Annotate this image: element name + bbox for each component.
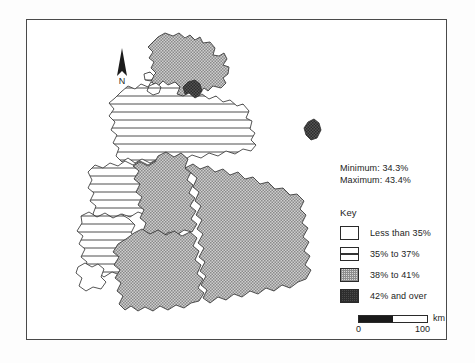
minimum-text: Minimum: 34.3% xyxy=(340,163,411,175)
scale-tick-labels: 0 100 xyxy=(358,324,428,336)
region-baden-wurttemberg xyxy=(113,229,204,311)
legend-label-35-37: 35% to 37% xyxy=(370,249,420,259)
legend-row-42-over: 42% and over xyxy=(340,285,431,306)
scale-tick-start: 0 xyxy=(356,324,361,334)
region-west-berlin xyxy=(304,119,321,140)
legend-label-lt35: Less than 35% xyxy=(370,228,431,238)
legend-row-38-41: 38% to 41% xyxy=(340,264,431,285)
map-page: N Minimum: 34.3% Maximum: 43.4% Key Less… xyxy=(0,0,475,363)
scale-bar: km 0 100 xyxy=(358,315,428,336)
legend-row-lt35: Less than 35% xyxy=(340,222,431,243)
legend-swatch-35-37 xyxy=(340,247,359,261)
region-bayern xyxy=(185,164,311,303)
map-frame: N Minimum: 34.3% Maximum: 43.4% Key Less… xyxy=(26,19,447,340)
region-saarland xyxy=(76,263,106,291)
scale-tick-end: 100 xyxy=(415,324,430,334)
maximum-text: Maximum: 43.4% xyxy=(340,175,411,187)
legend-swatch-42-over xyxy=(340,289,359,303)
north-arrow-label: N xyxy=(112,76,132,86)
map-legend: Key Less than 35% 35% to 37% 38% to 41% … xyxy=(340,207,431,306)
legend-title: Key xyxy=(340,207,431,218)
region-hessen xyxy=(133,152,197,237)
legend-row-35-37: 35% to 37% xyxy=(340,243,431,264)
legend-label-38-41: 38% to 41% xyxy=(370,270,420,280)
scale-segment-dark xyxy=(359,316,393,322)
statistics-block: Minimum: 34.3% Maximum: 43.4% xyxy=(340,163,411,186)
scale-unit-label: km xyxy=(433,313,445,323)
legend-label-42-over: 42% and over xyxy=(370,291,427,301)
legend-swatch-38-41 xyxy=(340,268,359,282)
legend-swatch-lt35 xyxy=(340,226,359,240)
scale-bar-graphic xyxy=(358,315,428,323)
scale-segment-light xyxy=(393,316,427,322)
